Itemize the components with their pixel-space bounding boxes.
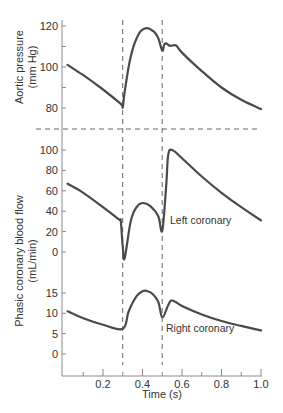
- aortic-ylabel-line1: Aortic pressure: [13, 30, 25, 104]
- right-coronary-annotation: Right coronary: [166, 322, 235, 334]
- coronary-flow-chart: 80100120020406080100051015 0.20.40.60.81…: [0, 0, 283, 413]
- y-tick-label: 0: [52, 246, 58, 258]
- flow-ylabel-line1: Phasic coronary blood flow: [13, 195, 25, 327]
- x-tick-label: 0.2: [95, 378, 110, 390]
- y-tick-label: 40: [46, 205, 58, 217]
- flow-ylabel-line2: (mL/min): [26, 239, 38, 282]
- y-tick-label: 60: [46, 185, 58, 197]
- left-coronary-annotation: Left coronary: [170, 214, 232, 226]
- x-axis-ticks: 0.20.40.60.81.0: [83, 369, 268, 390]
- x-tick-label: 1.0: [253, 378, 268, 390]
- aortic-pressure-line: [68, 28, 262, 109]
- aortic-ylabel-line2: (mm Hg): [26, 46, 38, 89]
- y-tick-label: 80: [46, 164, 58, 176]
- y-tick-label: 120: [40, 20, 58, 32]
- y-tick-label: 20: [46, 226, 58, 238]
- y-tick-label: 5: [52, 328, 58, 340]
- x-tick-label: 0.8: [214, 378, 229, 390]
- y-tick-label: 0: [52, 348, 58, 360]
- y-tick-label: 100: [40, 61, 58, 73]
- y-tick-label: 80: [46, 102, 58, 114]
- left-coronary-line: [68, 150, 262, 260]
- y-tick-label: 10: [46, 307, 58, 319]
- y-tick-label: 100: [40, 144, 58, 156]
- y-tick-label: 15: [46, 287, 58, 299]
- x-axis-title: Time (s): [142, 388, 182, 400]
